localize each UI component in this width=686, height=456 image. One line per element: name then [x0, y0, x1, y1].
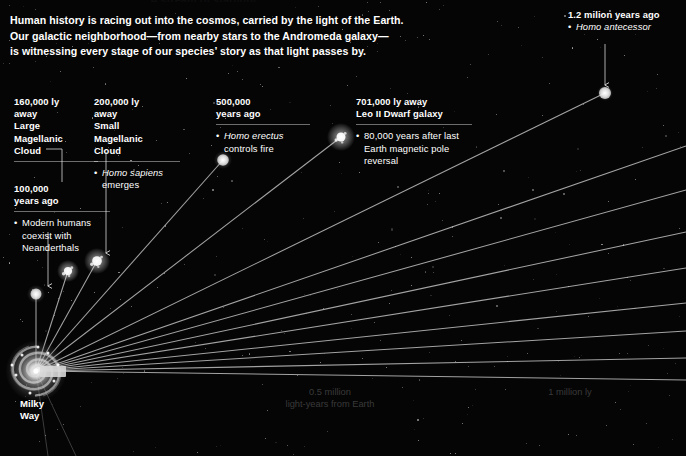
- light-ray: [36, 371, 686, 380]
- annotation-header-line: Large: [14, 120, 98, 132]
- annotation-header-line: Leo II Dwarf galaxy: [356, 108, 472, 120]
- small-magellanic-cloud-marker: [57, 260, 79, 282]
- annotation-large-magellanic-cloud: 160,000 lyawayLargeMagellanicCloud: [14, 96, 98, 167]
- annotation-header-line: years ago: [216, 108, 310, 120]
- homo-antecessor-marker: [597, 85, 613, 101]
- axis-label-line: 1 million ly: [490, 386, 650, 398]
- annotation-small-magellanic-cloud: 200,000 lyawaySmallMagellanicCloudHomo s…: [94, 96, 180, 192]
- species-name: Homo sapiens: [102, 167, 163, 178]
- annotation-divider: [216, 124, 310, 125]
- annotation-header-line: Cloud: [94, 145, 180, 157]
- light-ray: [36, 190, 686, 371]
- annotation-leo-ii-dwarf: 701,000 ly awayLeo II Dwarf galaxy80,000…: [356, 96, 472, 167]
- infographic-canvas: A stream of starlight Human history is r…: [0, 0, 686, 456]
- annotation-header-line: away: [14, 108, 98, 120]
- annotation-divider: [356, 124, 472, 125]
- annotation-divider: [94, 161, 180, 162]
- annotation-modern-humans: 100,000years agoModern humans coexist wi…: [14, 183, 110, 254]
- axis-label-line: 0.5 million: [250, 386, 410, 398]
- annotation-header-line: 701,000 ly away: [356, 96, 472, 108]
- milky-way-caption-line: Milky: [20, 398, 44, 410]
- annotation-bullet: Homo sapiens emerges: [94, 167, 180, 192]
- milky-way-caption-line: Way: [20, 410, 44, 422]
- intro-paragraph: Human history is racing out into the cos…: [10, 13, 480, 60]
- annotation-header-line: Cloud: [14, 145, 98, 157]
- annotation-bullet: 80,000 years after last Earth magnetic p…: [356, 130, 472, 167]
- species-name: Homo erectus: [224, 130, 284, 141]
- milky-way-caption: MilkyWay: [20, 398, 44, 422]
- large-magellanic-cloud-marker: [27, 285, 45, 303]
- leo-ii-dwarf-marker: [327, 123, 355, 151]
- annotation-header-line: Magellanic: [14, 133, 98, 145]
- annotation-header-line: away: [94, 108, 180, 120]
- intro-line: Human history is racing out into the cos…: [10, 13, 480, 29]
- annotation-header-line: 1.2 milion years ago: [568, 9, 686, 21]
- species-name: Homo antecessor: [576, 21, 651, 32]
- annotation-bullet: Homo antecessor: [568, 21, 686, 33]
- axis-label-half-million-ly: 0.5 millionlight-years from Earth: [250, 386, 410, 411]
- annotation-bullet: Homo erectus controls fire: [216, 130, 310, 155]
- intro-line: Our galactic neighborhood—from nearby st…: [10, 29, 480, 45]
- light-ray: [36, 232, 686, 371]
- milky-way-galaxy-icon: [6, 341, 66, 401]
- annotation-header-line: 500,000: [216, 96, 310, 108]
- axis-label-line: light-years from Earth: [250, 398, 410, 410]
- annotation-homo-erectus: 500,000years agoHomo erectus controls fi…: [216, 96, 310, 155]
- light-ray: [36, 268, 686, 371]
- annotation-header-line: 200,000 ly: [94, 96, 180, 108]
- earth-position-marker: [40, 366, 66, 377]
- annotation-bullet: Modern humans coexist with Neanderthals: [14, 217, 110, 254]
- annotation-homo-antecessor: 1.2 milion years agoHomo antecessor: [568, 9, 686, 34]
- annotation-divider: [14, 211, 110, 212]
- annotation-header-line: 160,000 ly: [14, 96, 98, 108]
- annotation-header-line: Small: [94, 120, 180, 132]
- axis-label-one-million-ly: 1 million ly: [490, 386, 650, 398]
- annotation-header-line: years ago: [14, 195, 110, 207]
- annotation-header-line: Magellanic: [94, 133, 180, 145]
- intro-line: is witnessing every stage of our species…: [10, 44, 480, 60]
- clipped-title: A stream of starlight: [150, 0, 550, 2]
- annotation-divider: [14, 161, 98, 162]
